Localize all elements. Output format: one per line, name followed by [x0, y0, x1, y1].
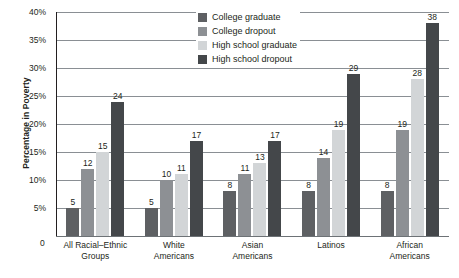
bar-value-label: 17 — [270, 130, 279, 140]
bar[interactable] — [317, 158, 330, 236]
x-axis-category-label-line: African — [370, 240, 449, 251]
bar-column: 8 — [381, 12, 394, 236]
y-axis-tick-label: 35% — [29, 35, 46, 45]
bar-column: 15 — [96, 12, 109, 236]
bar[interactable] — [396, 130, 409, 236]
legend-swatch-icon — [198, 13, 207, 22]
x-axis-category-labels: All Racial–EthnicGroupsWhiteAmericansAsi… — [56, 240, 449, 262]
bar-column: 24 — [111, 12, 124, 236]
bar[interactable] — [253, 163, 266, 236]
x-axis-category-label: All Racial–EthnicGroups — [56, 240, 135, 262]
bar-set: 5121524 — [56, 12, 135, 236]
x-axis-category-label-line: Latinos — [292, 240, 371, 251]
y-axis-tick-labels: 40%35%30%25%20%15%10%5% — [0, 12, 50, 236]
bar-group: 5121524 — [56, 12, 135, 236]
bar[interactable] — [111, 102, 124, 236]
bar-column: 5 — [66, 12, 79, 236]
y-axis-tick-label: 25% — [29, 91, 46, 101]
legend-label: High school dropout — [212, 54, 292, 64]
x-axis-category-label-line: White — [135, 240, 214, 251]
bar-value-label: 5 — [149, 197, 154, 207]
x-axis-category-label-line: Groups — [56, 251, 135, 262]
bar[interactable] — [411, 79, 424, 236]
bar-value-label: 11 — [241, 163, 250, 173]
bar[interactable] — [268, 141, 281, 236]
bar-set: 8192838 — [370, 12, 449, 236]
x-axis-category-label: Latinos — [292, 240, 371, 262]
y-axis-tick-label: 30% — [29, 63, 46, 73]
bar-value-label: 15 — [98, 141, 107, 151]
bar-column: 8 — [302, 12, 315, 236]
bar-value-label: 11 — [177, 163, 186, 173]
y-axis-tick-label: 5% — [34, 203, 46, 213]
y-axis-tick-label: 15% — [29, 147, 46, 157]
y-axis-tick-label: 40% — [29, 7, 46, 17]
bar[interactable] — [381, 191, 394, 236]
bar[interactable] — [238, 174, 251, 236]
bar-value-label: 19 — [397, 119, 406, 129]
bar-column: 12 — [81, 12, 94, 236]
bar-value-label: 10 — [162, 169, 171, 179]
bar[interactable] — [160, 180, 173, 236]
bar-value-label: 14 — [319, 147, 328, 157]
bar[interactable] — [332, 130, 345, 236]
bar-value-label: 5 — [70, 197, 75, 207]
x-axis-category-label-line: Asian — [213, 240, 292, 251]
bar[interactable] — [223, 191, 236, 236]
legend-label: College dropout — [212, 26, 276, 36]
x-axis-category-label: AsianAmericans — [213, 240, 292, 262]
chart-legend: College graduateCollege dropoutHigh scho… — [196, 11, 300, 65]
bar-column: 14 — [317, 12, 330, 236]
bar-set: 8141929 — [292, 12, 371, 236]
bar-column: 28 — [411, 12, 424, 236]
legend-swatch-icon — [198, 27, 207, 36]
legend-label: High school graduate — [212, 40, 297, 50]
x-axis-category-label: AfricanAmericans — [370, 240, 449, 262]
bar[interactable] — [302, 191, 315, 236]
y-axis-tick-label: 10% — [29, 175, 46, 185]
x-axis-category-label-line: All Racial–Ethnic — [56, 240, 135, 251]
legend-item[interactable]: High school dropout — [196, 53, 300, 65]
bar-value-label: 24 — [113, 91, 122, 101]
legend-swatch-icon — [198, 41, 207, 50]
bar-column: 19 — [396, 12, 409, 236]
x-axis-category-label-line: Americans — [213, 251, 292, 262]
bar-value-label: 8 — [228, 180, 233, 190]
bar-column: 10 — [160, 12, 173, 236]
bar-value-label: 19 — [334, 119, 343, 129]
bar[interactable] — [347, 74, 360, 236]
bar-column: 5 — [145, 12, 158, 236]
bar[interactable] — [96, 152, 109, 236]
bar-value-label: 29 — [349, 63, 358, 73]
bar-group: 8192838 — [370, 12, 449, 236]
legend-swatch-icon — [198, 55, 207, 64]
bar-column: 19 — [332, 12, 345, 236]
x-axis-category-label-line: Americans — [135, 251, 214, 262]
bar-column: 29 — [347, 12, 360, 236]
legend-item[interactable]: High school graduate — [196, 39, 300, 51]
bar-value-label: 38 — [427, 12, 436, 22]
bar[interactable] — [426, 23, 439, 236]
bar-value-label: 8 — [306, 180, 311, 190]
y-axis-tick-label: 20% — [29, 119, 46, 129]
legend-item[interactable]: College dropout — [196, 25, 300, 37]
x-axis-category-label: WhiteAmericans — [135, 240, 214, 262]
bar[interactable] — [81, 169, 94, 236]
bar[interactable] — [175, 174, 188, 236]
poverty-by-education-bar-chart: Percentage in Poverty 40%35%30%25%20%15%… — [0, 0, 459, 278]
bar[interactable] — [66, 208, 79, 236]
bar-column: 11 — [175, 12, 188, 236]
bar[interactable] — [145, 208, 158, 236]
y-axis-origin-label: 0 — [40, 238, 45, 248]
bar-value-label: 8 — [385, 180, 390, 190]
bar-value-label: 12 — [83, 158, 92, 168]
bar-value-label: 28 — [412, 68, 421, 78]
bar[interactable] — [190, 141, 203, 236]
bar-group: 8141929 — [292, 12, 371, 236]
bar-column: 38 — [426, 12, 439, 236]
x-axis-category-label-line: Americans — [370, 251, 449, 262]
bar-value-label: 13 — [255, 152, 264, 162]
legend-label: College graduate — [212, 12, 281, 22]
bar-value-label: 17 — [192, 130, 201, 140]
legend-item[interactable]: College graduate — [196, 11, 300, 23]
